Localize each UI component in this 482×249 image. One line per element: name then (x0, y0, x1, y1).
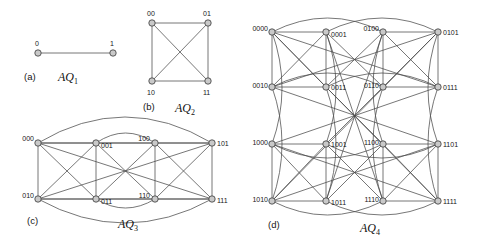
node-label-0000: 0000 (252, 25, 268, 32)
node-label-1100: 1100 (364, 139, 379, 146)
node-label-00: 00 (147, 10, 155, 17)
caption-name-aq1: AQ1 (57, 70, 78, 86)
graph-node-011[interactable] (93, 196, 99, 202)
graph-node-10[interactable] (149, 78, 155, 84)
graph-node-0111[interactable] (435, 84, 441, 90)
panel-aq1: 01(a)AQ100011011(b)AQ2000001100101010011… (0, 0, 482, 249)
node-label-1001: 1001 (331, 141, 347, 148)
graph-node-1000[interactable] (269, 141, 275, 147)
node-label-011: 011 (101, 198, 112, 205)
edges-aq4 (272, 18, 438, 215)
graph-node-0100[interactable] (380, 29, 386, 35)
node-label-0110: 0110 (364, 82, 379, 89)
graph-aq2: 00011011(b)AQ2 (143, 10, 211, 117)
caption-name-aq3: AQ3 (117, 217, 138, 233)
node-label-111: 111 (217, 197, 228, 204)
graph-node-0[interactable] (35, 50, 41, 56)
node-label-1111: 1111 (443, 198, 457, 205)
caption-tag-aq2: (b) (143, 101, 155, 112)
graph-node-01[interactable] (205, 20, 211, 26)
graph-node-00[interactable] (149, 20, 155, 26)
node-label-100: 100 (138, 135, 150, 142)
graph-aq4: 0000000101000101001000110110011110001001… (252, 18, 458, 237)
graph-node-0011[interactable] (323, 84, 329, 90)
node-label-1010: 1010 (252, 196, 268, 203)
graph-node-0000[interactable] (269, 29, 275, 35)
caption-name-aq4: AQ4 (359, 221, 380, 237)
graph-node-1011[interactable] (323, 198, 329, 204)
node-label-0111: 0111 (443, 84, 458, 91)
node-label-000: 000 (22, 135, 34, 142)
caption-name-aq2: AQ2 (174, 101, 195, 117)
figure-root: 01(a)AQ100011011(b)AQ2000001100101010011… (0, 0, 482, 249)
node-label-1011: 1011 (331, 199, 346, 206)
graph-node-1001[interactable] (323, 141, 329, 147)
node-label-01: 01 (203, 10, 211, 17)
node-label-0001: 0001 (331, 31, 347, 38)
caption-tag-aq3: (c) (27, 215, 38, 226)
graph-node-111[interactable] (209, 196, 215, 202)
graph-node-100[interactable] (152, 140, 158, 146)
caption-subscript-aq1: 1 (74, 77, 78, 86)
caption-subscript-aq2: 2 (191, 108, 195, 117)
node-label-1000: 1000 (252, 139, 268, 146)
node-label-10: 10 (147, 89, 155, 96)
graph-node-1100[interactable] (380, 141, 386, 147)
graph-node-0010[interactable] (269, 84, 275, 90)
graph-aq3: 000001100101010011110111(c)AQ3 (22, 117, 228, 233)
graph-node-1110[interactable] (380, 198, 386, 204)
graph-node-1010[interactable] (269, 198, 275, 204)
graph-node-1101[interactable] (435, 141, 441, 147)
caption-tag-aq1: (a) (24, 71, 36, 82)
node-label-0011: 0011 (331, 84, 346, 91)
node-label-001: 001 (101, 142, 113, 149)
edges-aq2 (152, 23, 208, 81)
node-label-101: 101 (217, 140, 229, 147)
graph-node-000[interactable] (35, 140, 41, 146)
caption-tag-aq4: (d) (268, 219, 280, 230)
graph-node-11[interactable] (205, 78, 211, 84)
graph-node-110[interactable] (152, 196, 158, 202)
graph-node-001[interactable] (93, 140, 99, 146)
graph-node-1[interactable] (110, 50, 116, 56)
graph-node-010[interactable] (35, 196, 41, 202)
node-label-0: 0 (35, 40, 39, 47)
node-label-11: 11 (203, 89, 210, 96)
graph-edge (38, 117, 212, 143)
node-label-0100: 0100 (363, 25, 379, 32)
edges-aq3 (38, 117, 212, 223)
node-label-0010: 0010 (252, 82, 268, 89)
caption-subscript-aq4: 4 (376, 228, 380, 237)
node-label-010: 010 (22, 192, 34, 199)
graph-node-0001[interactable] (323, 29, 329, 35)
graph-node-0101[interactable] (435, 29, 441, 35)
caption-subscript-aq3: 3 (134, 224, 138, 233)
nodes-aq1: 01 (35, 40, 116, 56)
node-label-1: 1 (110, 40, 114, 47)
graph-node-101[interactable] (209, 140, 215, 146)
node-label-1101: 1101 (443, 141, 458, 148)
graph-node-0110[interactable] (380, 84, 386, 90)
node-label-1110: 1110 (364, 196, 379, 203)
graph-node-1111[interactable] (435, 198, 441, 204)
node-label-0101: 0101 (443, 29, 459, 36)
graph-aq1: 01(a)AQ1 (24, 40, 116, 86)
node-label-110: 110 (139, 192, 150, 199)
